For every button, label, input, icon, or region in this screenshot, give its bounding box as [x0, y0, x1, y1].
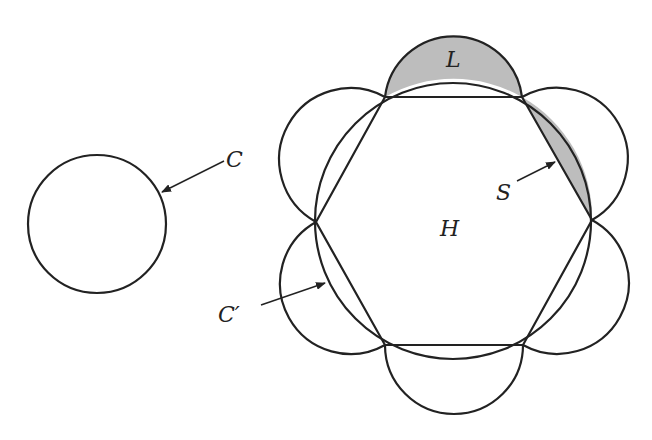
- label-l: L: [445, 47, 461, 72]
- label-s: S: [496, 180, 511, 205]
- label-c-prime: C′: [218, 302, 240, 327]
- label-c: C: [226, 147, 243, 172]
- diagram-canvas: C C′ H L S: [0, 0, 652, 440]
- arrow-to-c: [162, 161, 224, 192]
- arrow-to-c-prime: [261, 283, 325, 305]
- arrow-to-s: [517, 162, 555, 181]
- circle-c: [28, 155, 166, 293]
- diagram-svg: C C′ H L S: [0, 0, 652, 440]
- label-h: H: [439, 216, 460, 241]
